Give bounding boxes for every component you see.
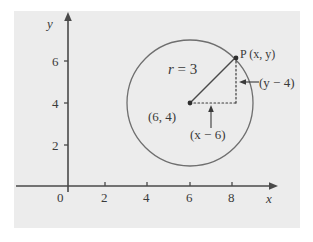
y-axis [64,12,72,192]
x-axis [16,182,278,190]
vertical-leg-label: (y − 4) [259,76,295,89]
point-p-text: P (x, y) [240,47,275,61]
x-tick-label-4: 4 [143,191,150,204]
radius-label: r = 3 [168,62,197,77]
center-label: (6, 4) [148,110,176,123]
radius-value: = 3 [174,61,197,77]
x-tick-label-8: 8 [228,191,235,204]
figure-container: y x 0 6 4 2 2 4 6 8 P (x, y) r = 3 (6, 4… [0,0,313,242]
x-axis-label: x [266,192,272,205]
center-point-marker [188,101,193,106]
point-p-label: P (x, y) [240,48,275,60]
y-tick-label-4: 4 [52,97,59,110]
horizontal-leg-arrow [208,105,214,128]
horizontal-leg-label: (x − 6) [190,128,226,141]
y-tick-label-6: 6 [52,55,59,68]
x-tick-label-2: 2 [101,191,108,204]
x-tick-label-6: 6 [186,191,193,204]
point-p-marker [234,56,239,61]
y-axis-label: y [47,17,53,30]
y-tick-label-2: 2 [52,139,59,152]
origin-label: 0 [57,191,64,204]
